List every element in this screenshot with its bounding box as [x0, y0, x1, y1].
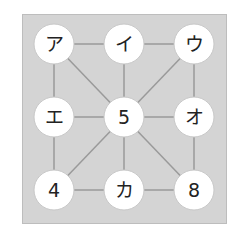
node-e: エ — [34, 97, 74, 137]
node-c4: 4 — [34, 170, 74, 210]
node-a: ア — [34, 24, 74, 64]
node-label: イ — [115, 33, 134, 55]
node-c8: 8 — [174, 170, 214, 210]
node-label: 5 — [118, 106, 130, 128]
node-o: オ — [174, 97, 214, 137]
node-label: エ — [45, 106, 64, 128]
node-label: 8 — [188, 179, 200, 201]
node-label: ア — [45, 33, 64, 55]
node-ka: カ — [104, 170, 144, 210]
graph-diagram: アイウエ5オ4カ8 — [0, 0, 237, 234]
node-label: カ — [115, 179, 134, 201]
node-label: ウ — [185, 33, 204, 55]
node-label: オ — [185, 106, 204, 128]
node-i: イ — [104, 24, 144, 64]
node-u: ウ — [174, 24, 214, 64]
node-label: 4 — [48, 179, 60, 201]
node-c5: 5 — [104, 97, 144, 137]
